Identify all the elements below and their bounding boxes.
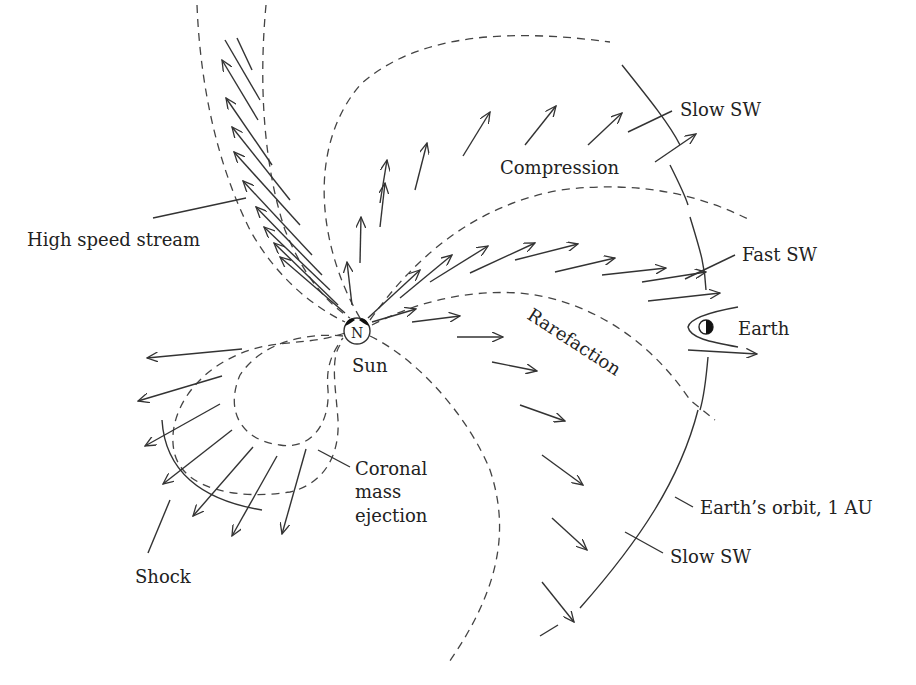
- fast-sw-arrows: [368, 243, 720, 318]
- cme-arrows: [138, 349, 306, 536]
- shock-arc: [162, 420, 262, 510]
- slow-sw-top-label: Slow SW: [680, 99, 761, 120]
- shock-label: Shock: [135, 566, 192, 587]
- compression-arrows: [347, 106, 696, 305]
- diagram-canvas: N Sun Earth Slow SW Compression Fast SW …: [0, 0, 916, 685]
- sun: N: [344, 318, 370, 344]
- slow-sw-bottom-label: Slow SW: [670, 546, 751, 567]
- earth-orbit-label: Earth’s orbit, 1 AU: [700, 497, 873, 518]
- leader-lines: [148, 111, 735, 553]
- fast-sw-label: Fast SW: [742, 244, 818, 265]
- earth-night-side: [706, 320, 713, 334]
- solar-wind-diagram: N Sun Earth Slow SW Compression Fast SW …: [0, 0, 916, 685]
- cme-outlines: [173, 333, 345, 495]
- cme-label-line1: Coronal: [355, 458, 427, 479]
- high-speed-stream-label: High speed stream: [27, 229, 200, 250]
- high-speed-stream-arrows: [222, 38, 345, 313]
- rarefaction-label: Rarefaction: [524, 304, 625, 380]
- earth-label: Earth: [738, 318, 790, 339]
- compression-label: Compression: [500, 157, 620, 178]
- cme-label-line2: mass: [355, 481, 401, 502]
- sun-symbol: N: [351, 325, 363, 341]
- sun-label: Sun: [352, 355, 388, 376]
- high-speed-stream-boundaries: [197, 5, 350, 322]
- cme-label-line3: ejection: [355, 505, 428, 526]
